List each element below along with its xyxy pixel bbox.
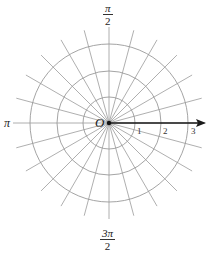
radial-line — [61, 123, 109, 206]
radial-line — [109, 40, 157, 123]
polar-grid — [0, 0, 211, 257]
radial-line — [109, 123, 192, 171]
radial-line — [109, 75, 192, 123]
radial-line — [41, 123, 109, 191]
radial-line — [109, 123, 157, 206]
radial-line — [26, 123, 109, 171]
radial-line — [109, 55, 177, 123]
axis-tick-2: 2 — [163, 126, 168, 136]
origin-label: O — [95, 116, 104, 129]
axis-tick-3: 3 — [191, 126, 196, 136]
angle-label-pi-over-2: π 2 — [103, 2, 113, 27]
radial-line — [41, 55, 109, 123]
angle-label-pi: π — [4, 117, 10, 129]
axis-tick-1: 1 — [137, 126, 142, 136]
origin-point — [107, 121, 111, 125]
angle-label-3pi-over-2: 3π 2 — [100, 227, 115, 252]
radial-line — [61, 40, 109, 123]
